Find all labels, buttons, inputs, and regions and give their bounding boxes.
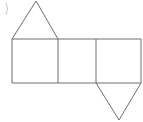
net-figure-canvas [0, 0, 143, 122]
corner-mark-icon [6, 3, 8, 15]
triangle-top-face [12, 1, 58, 39]
square-left-face [12, 39, 58, 83]
square-middle-face [58, 39, 96, 83]
triangle-bottom-face [96, 83, 141, 120]
square-right-face [96, 39, 141, 83]
net-figure-svg [0, 0, 143, 122]
